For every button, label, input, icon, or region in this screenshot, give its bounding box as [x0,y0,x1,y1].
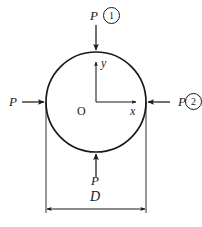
y-axis-label: y [101,57,106,69]
load-left-label: P [9,95,17,108]
load-top-marker: 1 [103,7,120,24]
diameter-label: D [90,190,100,204]
figure-canvas: P 1 P 2 P P y x O D [0,0,202,227]
load-right-marker: 2 [185,93,202,110]
load-bottom-label: P [91,174,99,187]
load-top-label: P [90,9,98,22]
x-axis-label: x [130,105,135,117]
origin-label: O [77,105,86,117]
figure-drawing [0,0,202,227]
